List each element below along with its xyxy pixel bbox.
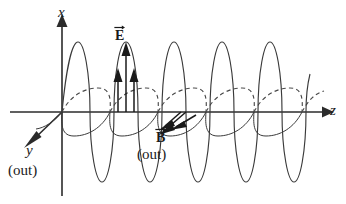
y-axis-label: y [26,143,33,158]
b-field-label-text: B [156,130,165,145]
axis-group [10,14,334,196]
b-field-label-group: B [156,129,165,145]
e-field-label-text: E [115,28,124,43]
e-field-vectors [114,42,139,112]
em-wave-diagram [0,0,346,204]
b-field-label: B [156,131,165,145]
e-vector-arrow-left-head [114,68,123,82]
e-field-label: E [115,29,124,43]
z-axis-label: z [330,103,336,118]
e-field-label-group: E [115,27,124,43]
y-axis-out-annotation: (out) [8,163,37,178]
e-vector-arrow-right-head [130,68,139,82]
b-field-out-annotation: (out) [137,147,166,162]
em-wave-figure: x z y (out) E B (out) [0,0,346,204]
x-axis-label: x [58,5,65,20]
b-field-wave-dashed [62,88,324,112]
